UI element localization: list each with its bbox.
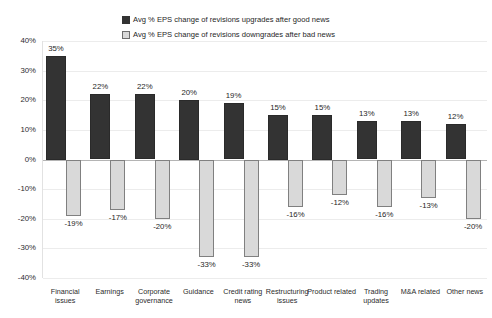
bar-group: 13%-16% [357, 41, 392, 278]
bar-value-label-downgrade: -16% [372, 211, 397, 219]
bar-upgrade [90, 94, 110, 159]
bar-value-label-upgrade: 13% [398, 110, 424, 118]
y-axis-tick-label: -20% [2, 215, 36, 223]
bar-downgrade [288, 160, 303, 207]
bar-downgrade [466, 160, 481, 219]
bar-chart: Avg % EPS change of revisions upgrades a… [0, 0, 492, 318]
bar-upgrade [46, 56, 66, 160]
bar-upgrade [446, 124, 466, 160]
bar-value-label-upgrade: 20% [176, 89, 202, 97]
legend-swatch-dark-icon [122, 16, 130, 24]
bar-upgrade [312, 115, 332, 159]
x-axis-category-label: M&A related [395, 288, 445, 297]
bar-group: 19%-33% [224, 41, 259, 278]
bar-downgrade [110, 160, 125, 210]
bar-group: 15%-16% [268, 41, 303, 278]
bar-value-label-upgrade: 15% [309, 104, 335, 112]
x-axis-category-label: Credit rating news [218, 288, 268, 305]
x-axis-category-label: Corporate governance [129, 288, 179, 305]
bar-value-label-upgrade: 22% [132, 83, 158, 91]
y-axis-tick-label: -10% [2, 185, 36, 193]
legend-item-upgrades: Avg % EPS change of revisions upgrades a… [122, 13, 422, 26]
x-axis-category-label: Trading updates [351, 288, 401, 305]
bar-group: 22%-20% [135, 41, 170, 278]
bar-upgrade [268, 115, 288, 159]
bar-value-label-downgrade: -13% [416, 202, 441, 210]
bar-value-label-downgrade: -16% [283, 211, 308, 219]
gridline [43, 278, 487, 279]
bar-downgrade [199, 160, 214, 258]
y-axis-tick-label: 20% [2, 96, 36, 104]
bar-value-label-upgrade: 19% [221, 92, 247, 100]
bar-upgrade [179, 100, 199, 159]
bar-value-label-upgrade: 22% [87, 83, 113, 91]
bar-value-label-downgrade: -33% [239, 261, 264, 269]
x-axis-category-label: Other news [440, 288, 490, 297]
bar-value-label-downgrade: -20% [461, 223, 486, 231]
bar-value-label-upgrade: 35% [43, 45, 69, 53]
x-axis-category-label: Earnings [84, 288, 134, 297]
x-axis-category-label: Restructuring issues [262, 288, 312, 305]
legend-label-downgrades: Avg % EPS change of revisions downgrades… [133, 30, 335, 39]
y-axis-tick-label: 40% [2, 37, 36, 45]
bar-upgrade [224, 103, 244, 159]
bar-value-label-downgrade: -33% [194, 261, 219, 269]
chart-legend: Avg % EPS change of revisions upgrades a… [122, 13, 422, 43]
y-axis-tick-label: -40% [2, 274, 36, 282]
bar-value-label-upgrade: 13% [354, 110, 380, 118]
bar-upgrade [401, 121, 421, 160]
bar-downgrade [332, 160, 347, 196]
bar-value-label-downgrade: -20% [150, 223, 175, 231]
bar-group: 35%-19% [46, 41, 81, 278]
x-axis-category-label: Product related [306, 288, 356, 297]
bar-downgrade [421, 160, 436, 199]
bar-group: 15%-12% [312, 41, 347, 278]
bar-group: 22%-17% [90, 41, 125, 278]
bar-group: 12%-20% [446, 41, 481, 278]
y-axis-tick-label: 10% [2, 126, 36, 134]
bar-group: 13%-13% [401, 41, 436, 278]
legend-swatch-light-icon [122, 31, 130, 39]
x-axis-category-label: Financial issues [40, 288, 90, 305]
bar-value-label-downgrade: -12% [327, 199, 352, 207]
bar-value-label-upgrade: 15% [265, 104, 291, 112]
bar-value-label-downgrade: -17% [105, 214, 130, 222]
bar-downgrade [155, 160, 170, 219]
y-axis-tick-label: -30% [2, 244, 36, 252]
bar-upgrade [135, 94, 155, 159]
bar-downgrade [244, 160, 259, 258]
bar-downgrade [66, 160, 81, 216]
plot-area: 35%-19%22%-17%22%-20%20%-33%19%-33%15%-1… [43, 41, 487, 278]
x-axis-category-label: Guidance [173, 288, 223, 297]
y-axis-tick-label: 30% [2, 67, 36, 75]
legend-item-downgrades: Avg % EPS change of revisions downgrades… [122, 28, 422, 41]
y-axis-tick-label: 0% [2, 156, 36, 164]
bar-upgrade [357, 121, 377, 160]
bar-value-label-upgrade: 12% [443, 113, 469, 121]
legend-label-upgrades: Avg % EPS change of revisions upgrades a… [133, 15, 330, 24]
bar-group: 20%-33% [179, 41, 214, 278]
bar-value-label-downgrade: -19% [61, 220, 86, 228]
bar-downgrade [377, 160, 392, 207]
